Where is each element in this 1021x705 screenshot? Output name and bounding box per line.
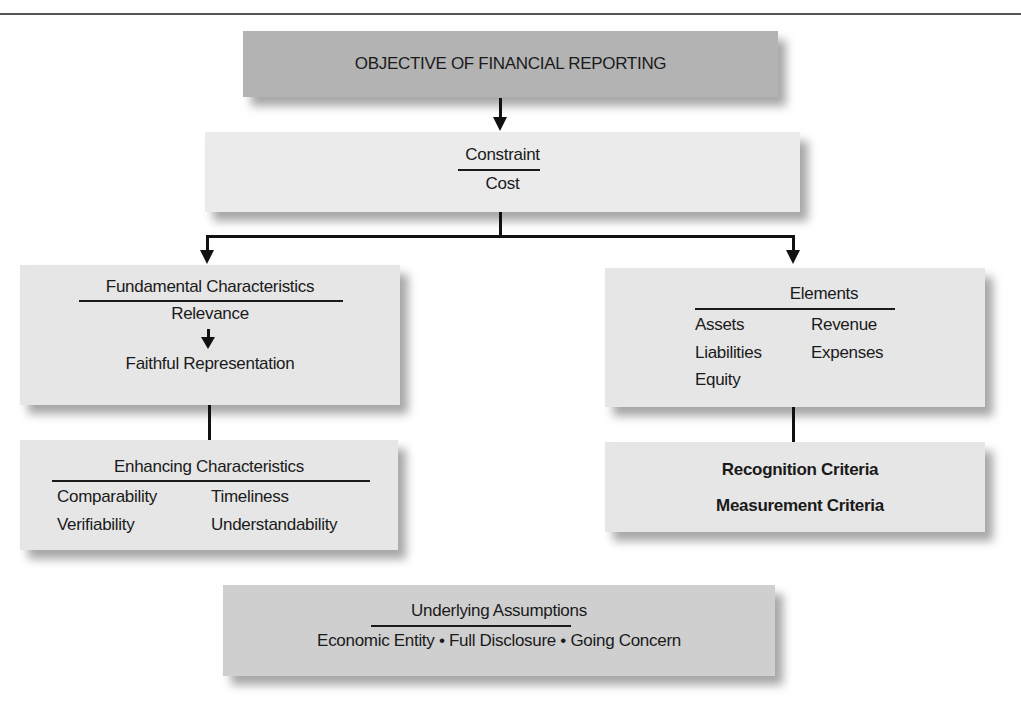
elements-underline (695, 308, 895, 310)
constraint-box: Constraint Cost (205, 132, 800, 212)
recognition-criteria-item: Recognition Criteria (722, 460, 878, 480)
fundamental-heading: Fundamental Characteristics (106, 277, 314, 297)
enhancing-underline (52, 480, 370, 482)
verifiability-item: Verifiability (57, 515, 134, 535)
arrow-down-icon (200, 250, 214, 264)
objective-title: OBJECTIVE OF FINANCIAL REPORTING (355, 54, 667, 74)
objective-box: OBJECTIVE OF FINANCIAL REPORTING (243, 31, 778, 97)
equity-item: Equity (695, 370, 740, 390)
assumptions-list: Economic Entity • Full Disclosure • Goin… (317, 631, 681, 651)
constraint-underline (458, 169, 540, 171)
criteria-box: Recognition Criteria Measurement Criteri… (605, 442, 985, 532)
arrow-down-icon (493, 117, 507, 131)
measurement-criteria-item: Measurement Criteria (716, 496, 884, 516)
liabilities-item: Liabilities (695, 343, 762, 363)
elements-heading: Elements (790, 284, 858, 304)
connector-elements-criteria (792, 407, 795, 442)
understandability-item: Understandability (211, 515, 337, 535)
underlying-assumptions-box: Underlying Assumptions Economic Entity •… (223, 585, 775, 676)
faithful-representation-item: Faithful Representation (126, 354, 295, 374)
assumptions-underline (371, 625, 571, 627)
revenue-item: Revenue (811, 315, 877, 335)
fundamental-underline (79, 300, 343, 302)
connector-objective-constraint (499, 98, 502, 118)
constraint-heading: Constraint (465, 145, 539, 165)
elements-box: Elements Assets Revenue Liabilities Expe… (605, 268, 985, 407)
connector-left-down (206, 235, 209, 251)
comparability-item: Comparability (57, 487, 157, 507)
connector-horizontal (206, 235, 795, 238)
arrow-down-icon (786, 250, 800, 264)
assumptions-heading: Underlying Assumptions (411, 601, 587, 621)
expenses-item: Expenses (811, 343, 883, 363)
enhancing-characteristics-box: Enhancing Characteristics Comparability … (20, 440, 398, 550)
arrow-down-icon (201, 337, 215, 349)
constraint-item: Cost (486, 174, 520, 194)
assets-item: Assets (695, 315, 744, 335)
relevance-item: Relevance (171, 304, 249, 324)
enhancing-heading: Enhancing Characteristics (114, 457, 304, 477)
top-rule (0, 13, 1021, 15)
connector-fundamental-enhancing (208, 405, 211, 440)
fundamental-characteristics-box: Fundamental Characteristics Relevance Fa… (20, 265, 400, 405)
timeliness-item: Timeliness (211, 487, 289, 507)
connector-right-down (792, 235, 795, 251)
